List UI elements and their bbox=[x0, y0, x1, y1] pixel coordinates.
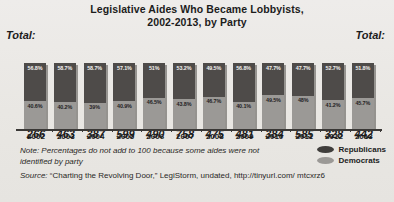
source-prefix: Source: bbox=[20, 171, 48, 180]
stacked-bar[interactable]: 49.5%46.7% bbox=[203, 63, 225, 129]
bar-segment-label-democrat: 43.8% bbox=[177, 99, 192, 107]
x-axis-tick-label: 2004 bbox=[84, 132, 108, 141]
bar-segment-label-democrat: 39% bbox=[89, 103, 100, 111]
bar-segment-democrat[interactable]: 43.8% bbox=[173, 99, 195, 129]
bar-segment-republican[interactable]: 49.5% bbox=[203, 63, 225, 97]
chart-title-line-2: 2002-2013, by Party bbox=[0, 16, 394, 29]
bar-segment-label-republican: 47.7% bbox=[266, 63, 281, 71]
legend-item-label: Democrats bbox=[338, 156, 379, 165]
x-axis-tick-label: 2013 bbox=[352, 132, 376, 141]
bar-segment-label-republican: 52.7% bbox=[326, 63, 341, 71]
stacked-bar[interactable]: 57.1%40.9% bbox=[113, 63, 135, 129]
bar-segment-democrat[interactable]: 49.5% bbox=[262, 95, 284, 129]
bar-segment-republican[interactable]: 47.7% bbox=[292, 63, 314, 96]
x-axis-tick-label: 2007 bbox=[173, 132, 197, 141]
stacked-bar[interactable]: 47.7%49.5% bbox=[262, 63, 284, 129]
x-axis-line bbox=[16, 129, 382, 131]
x-axis-tick-label: 2003 bbox=[54, 132, 78, 141]
bar-segment-label-democrat: 45.7% bbox=[355, 98, 370, 106]
stacked-bar[interactable]: 52.7%41.2% bbox=[322, 63, 344, 129]
bar-segment-label-democrat: 40.1% bbox=[236, 102, 251, 110]
legend-item-label: Republicans bbox=[338, 145, 386, 154]
bar-segment-label-democrat: 41.2% bbox=[326, 100, 341, 108]
bar-segment-label-republican: 51% bbox=[149, 63, 160, 71]
bar-segment-label-republican: 53.2% bbox=[177, 63, 192, 71]
bar-segment-label-democrat: 40.2% bbox=[57, 102, 72, 110]
bar-segment-label-democrat: 40.6% bbox=[28, 101, 43, 109]
chart-source: Source: “Charting the Revolving Door,” L… bbox=[20, 171, 386, 182]
bar-segment-democrat[interactable]: 40.1% bbox=[233, 102, 255, 129]
stacked-bar[interactable]: 56.8%40.1% bbox=[233, 63, 255, 129]
stacked-bar[interactable]: 58.7%39% bbox=[84, 63, 106, 129]
bar-segment-republican[interactable]: 52.7% bbox=[322, 63, 344, 100]
legend-item[interactable]: Democrats bbox=[317, 156, 386, 165]
bar-segment-label-democrat: 46.5% bbox=[147, 98, 162, 106]
total-label-left: Total: bbox=[6, 29, 36, 41]
bar-segment-republican[interactable]: 53.2% bbox=[173, 63, 195, 99]
bar-segment-label-democrat: 40.9% bbox=[117, 101, 132, 109]
bar-segment-democrat[interactable]: 40.6% bbox=[24, 101, 46, 129]
bar-segment-republican[interactable]: 56.8% bbox=[233, 63, 255, 102]
bar-segment-label-democrat: 46.7% bbox=[206, 97, 221, 105]
x-axis-tick-labels: 2002200320042005200620072008200920102011… bbox=[22, 132, 380, 144]
bar-segment-democrat[interactable]: 40.2% bbox=[54, 102, 76, 129]
bar-segment-label-republican: 58.7% bbox=[87, 63, 102, 71]
bar-segment-label-republican: 58.7% bbox=[57, 63, 72, 71]
x-axis-tick bbox=[380, 129, 381, 132]
bar-segment-democrat[interactable]: 39% bbox=[84, 103, 106, 129]
x-axis-tick-label: 2012 bbox=[322, 132, 346, 141]
chart-figure: Legislative Aides Who Became Lobbyists, … bbox=[0, 0, 394, 202]
plot-area: 26656.8%40.6%46358.7%40.2%38758.7%39%599… bbox=[22, 44, 380, 129]
x-axis-tick-label: 2005 bbox=[113, 132, 137, 141]
legend-item[interactable]: Republicans bbox=[317, 145, 386, 154]
chart-legend: RepublicansDemocrats bbox=[317, 145, 386, 165]
bar-segment-republican[interactable]: 51.8% bbox=[352, 63, 374, 98]
bar-segment-republican[interactable]: 51% bbox=[143, 63, 165, 98]
bar-segment-democrat[interactable]: 46.7% bbox=[203, 97, 225, 129]
stacked-bar[interactable]: 51.8%45.7% bbox=[352, 63, 374, 129]
bar-segment-label-republican: 56.8% bbox=[236, 63, 251, 71]
x-axis-tick-label: 2008 bbox=[203, 132, 227, 141]
bar-segment-label-republican: 51.8% bbox=[355, 63, 370, 71]
bar-segment-republican[interactable]: 58.7% bbox=[54, 63, 76, 102]
bar-segment-label-republican: 56.8% bbox=[28, 63, 43, 71]
bar-segment-democrat[interactable]: 45.7% bbox=[352, 98, 374, 129]
stacked-bar[interactable]: 51%46.5% bbox=[143, 63, 165, 129]
stacked-bar[interactable]: 53.2%43.8% bbox=[173, 63, 195, 129]
ellipse-swatch-icon bbox=[317, 146, 334, 153]
bar-segment-republican[interactable]: 57.1% bbox=[113, 63, 135, 101]
stacked-bar[interactable]: 56.8%40.6% bbox=[24, 63, 46, 129]
bar-segment-label-democrat: 49.5% bbox=[266, 95, 281, 103]
x-axis-tick-label: 2010 bbox=[262, 132, 286, 141]
chart-note: Note: Percentages do not add to 100 beca… bbox=[20, 146, 270, 167]
chart-title-line-1: Legislative Aides Who Became Lobbyists, bbox=[0, 3, 394, 16]
stacked-bar[interactable]: 58.7%40.2% bbox=[54, 63, 76, 129]
x-axis-tick-label: 2009 bbox=[233, 132, 257, 141]
bar-segment-republican[interactable]: 56.8% bbox=[24, 63, 46, 101]
x-axis-tick-label: 2002 bbox=[24, 132, 48, 141]
x-axis-tick-label: 2006 bbox=[143, 132, 167, 141]
bar-segment-label-republican: 57.1% bbox=[117, 63, 132, 71]
bar-segment-republican[interactable]: 47.7% bbox=[262, 63, 284, 95]
ellipse-swatch-icon bbox=[317, 157, 334, 164]
chart-title: Legislative Aides Who Became Lobbyists, … bbox=[0, 3, 394, 28]
source-text: “Charting the Revolving Door,” LegiStorm… bbox=[48, 171, 325, 180]
x-axis-tick-label: 2011 bbox=[292, 132, 316, 141]
bar-segment-label-republican: 49.5% bbox=[206, 63, 221, 71]
bar-segment-democrat[interactable]: 41.2% bbox=[322, 100, 344, 129]
total-label-right: Total: bbox=[355, 29, 385, 41]
stacked-bar[interactable]: 47.7%48% bbox=[292, 63, 314, 129]
bar-segment-label-republican: 47.7% bbox=[296, 63, 311, 71]
bar-segment-republican[interactable]: 58.7% bbox=[84, 63, 106, 103]
bar-segment-democrat[interactable]: 48% bbox=[292, 96, 314, 129]
bar-segment-label-democrat: 48% bbox=[298, 96, 309, 104]
bar-segment-democrat[interactable]: 40.9% bbox=[113, 101, 135, 129]
bar-segment-democrat[interactable]: 46.5% bbox=[143, 98, 165, 129]
